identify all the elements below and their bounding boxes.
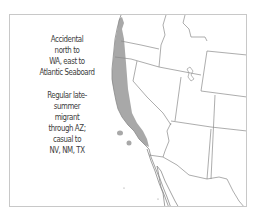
ut-az-border [171,121,247,131]
note-line: north to [30,44,104,55]
note-line: casual to [30,133,104,144]
note-line: through AZ; [30,122,104,133]
note-line: NV, NM, TX [30,144,104,155]
range-map: Accidental north to WA, east to Atlantic… [9,14,247,207]
migrant-range-note: Regular late- summer migrant through AZ;… [30,89,104,155]
note-line: WA, east to [30,55,104,66]
note-line: migrant [30,111,104,122]
wy-border [207,51,247,55]
az-river-border [163,123,171,157]
island [157,198,158,199]
island [123,187,124,188]
accidental-range-note: Accidental north to WA, east to Atlantic… [30,33,104,77]
wa-or-border [121,41,159,49]
wy-west-border [201,51,207,91]
id-mt-border [183,15,207,41]
great-salt-lake [187,67,194,81]
or-ca-border [115,57,201,75]
note-line: Atlantic Seaboard [30,66,104,77]
wy-south-border [201,91,247,97]
ut-co-border [211,95,215,179]
az-nm-border [207,129,211,179]
baja-coast [147,149,165,207]
note-line: Regular late- [30,89,104,100]
ca-nv-border [133,61,171,125]
island [127,141,132,146]
or-id-border [159,15,166,67]
island [117,131,123,136]
us-mexico-border [149,155,245,207]
note-line: summer [30,100,104,111]
nv-ut-border [175,77,181,121]
note-line: Accidental [30,33,104,44]
